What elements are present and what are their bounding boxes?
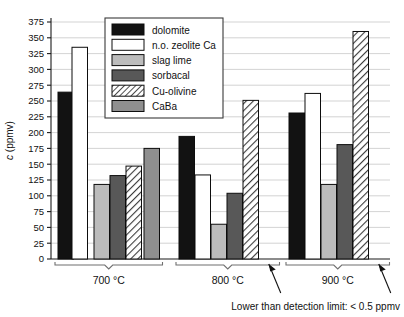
legend-label: sorbacal — [152, 70, 190, 81]
y-tick-label: 125 — [28, 174, 44, 185]
bar: slag lime 800 °C: 55 — [211, 224, 227, 259]
legend-swatch — [112, 70, 144, 81]
chart-canvas: 0255075100125150175200225250275300325350… — [0, 0, 404, 317]
y-tick-marks — [47, 22, 51, 259]
bar-chart: 0255075100125150175200225250275300325350… — [0, 0, 404, 317]
group-brace — [55, 262, 163, 269]
legend-label: Cu-olivine — [152, 86, 197, 97]
bar: dolomite 800 °C: 194 — [179, 136, 195, 259]
legend-swatch — [112, 24, 144, 35]
y-tick-label: 0 — [39, 253, 44, 264]
legend-swatch — [112, 85, 144, 96]
detection-limit-note: Lower than detection limit: < 0.5 ppmv — [231, 301, 400, 312]
group-brace — [286, 262, 390, 269]
legend-swatch — [112, 39, 144, 50]
legend-swatch — [112, 55, 144, 66]
bar: sorbacal 700 °C: 132 — [110, 176, 126, 259]
legend-label: slag lime — [152, 55, 192, 66]
legend-swatch — [112, 101, 144, 112]
bar: n.o. zeolite Ca 900 °C: 262 — [305, 93, 321, 259]
y-tick-label: 25 — [33, 238, 44, 249]
bar: slag lime 700 °C: 118 — [94, 184, 110, 259]
bar: n.o. zeolite Ca 800 °C: 133 — [195, 175, 211, 259]
y-tick-label: 225 — [28, 111, 44, 122]
y-tick-label: 375 — [28, 16, 44, 27]
y-tick-label: 100 — [28, 190, 44, 201]
y-tick-label: 300 — [28, 64, 44, 75]
y-tick-label: 350 — [28, 32, 44, 43]
legend-label: n.o. zeolite Ca — [152, 40, 216, 51]
group-label: 800 °C — [212, 274, 245, 286]
y-tick-label: 250 — [28, 95, 44, 106]
y-tick-label: 200 — [28, 127, 44, 138]
group-label: 700 °C — [93, 274, 126, 286]
group-label: 900 °C — [322, 274, 355, 286]
bar: Cu-olivine 800 °C: 251 — [243, 100, 259, 259]
y-tick-label: 150 — [28, 159, 44, 170]
bar: dolomite 700 °C: 264 — [58, 92, 74, 259]
y-tick-labels: 0255075100125150175200225250275300325350… — [28, 16, 44, 264]
y-tick-label: 50 — [33, 222, 44, 233]
bar: n.o. zeolite Ca 700 °C: 335 — [72, 47, 88, 259]
bar: sorbacal 900 °C: 181 — [337, 145, 353, 259]
bar: dolomite 900 °C: 231 — [289, 113, 305, 259]
chart-legend: dolomiten.o. zeolite Caslag limesorbacal… — [105, 18, 223, 118]
bar: sorbacal 800 °C: 104 — [227, 193, 243, 259]
group-labels: 700 °C800 °C900 °C — [93, 274, 355, 286]
group-braces — [55, 262, 390, 269]
y-tick-label: 175 — [28, 143, 44, 154]
y-axis-title: c (ppmv) — [4, 121, 15, 160]
bar: slag lime 900 °C: 118 — [321, 184, 337, 259]
y-tick-label: 325 — [28, 48, 44, 59]
legend-label: CaBa — [152, 101, 177, 112]
group-brace — [176, 262, 280, 269]
legend-label: dolomite — [152, 25, 190, 36]
bar: Cu-olivine 700 °C: 147 — [126, 166, 142, 259]
y-tick-label: 275 — [28, 80, 44, 91]
y-tick-label: 75 — [33, 206, 44, 217]
svg-text:c (ppmv): c (ppmv) — [4, 121, 15, 160]
bar: Cu-olivine 900 °C: 360 — [353, 31, 369, 259]
bar: CaBa 700 °C: 175 — [144, 148, 160, 259]
